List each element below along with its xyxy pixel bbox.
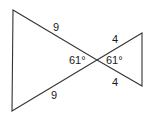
left-angle-label: 61°	[69, 54, 86, 66]
left-top-side-label: 9	[53, 21, 59, 33]
right-angle-label: 61°	[106, 54, 123, 66]
left-bottom-side-label: 9	[51, 89, 57, 101]
right-bottom-side-label: 4	[112, 76, 118, 88]
bowtie-diagram: 9 9 61° 4 4 61°	[0, 0, 155, 125]
right-top-side-label: 4	[112, 33, 118, 45]
